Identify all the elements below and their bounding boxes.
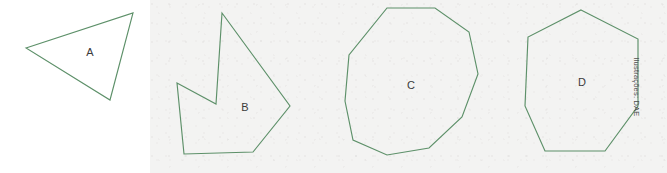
shape-label-b: B bbox=[241, 101, 249, 113]
polygon-shape-a bbox=[26, 13, 133, 100]
shape-label-c: C bbox=[407, 79, 415, 91]
shape-label-a: A bbox=[86, 46, 94, 58]
illustration-credit: Ilustrações: DAE bbox=[632, 57, 641, 116]
shape-label-d: D bbox=[578, 76, 586, 88]
geometry-figure-panel: A B C D Ilustrações: DAE bbox=[0, 0, 667, 173]
polygon-shape-b bbox=[177, 13, 290, 154]
polygon-drawing-canvas bbox=[0, 0, 667, 173]
